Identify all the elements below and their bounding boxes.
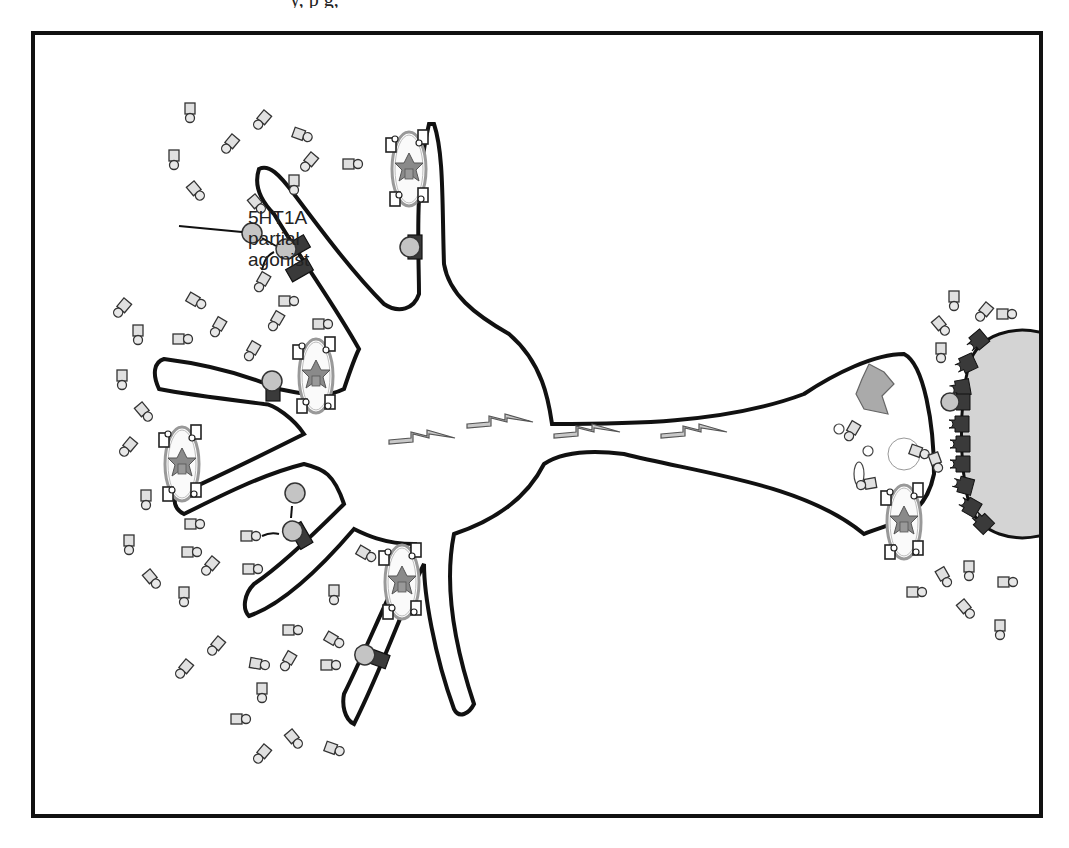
figure-frame: 5HT1A partial agonist [31,31,1043,818]
postsynaptic-cell [941,329,1043,538]
annotation-line-2: partial [248,228,309,249]
annotation-line-3: agonist [248,249,309,270]
annotation-line-1: 5HT1A [248,207,309,228]
annotation-pointer [179,226,242,232]
top-caption-fragment: y, p g, [0,0,1069,8]
annotation-label: 5HT1A partial agonist [248,207,309,270]
neuron-diagram [35,35,1043,818]
